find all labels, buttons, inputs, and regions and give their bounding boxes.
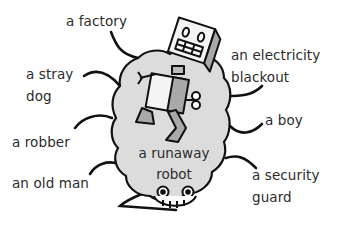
label-text: blackout [231, 66, 320, 88]
label-factory: a factory [66, 10, 127, 32]
leg-factory [111, 32, 138, 58]
leg-old-man [90, 162, 118, 174]
label-security-guard: a security guard [252, 164, 319, 208]
label-boy: a boy [265, 109, 303, 131]
label-text: a factory [66, 13, 127, 29]
label-text: guard [252, 186, 319, 208]
label-stray-dog: a stray dog [26, 63, 73, 107]
center-topic: a runaway robot [120, 143, 228, 185]
label-electricity-blackout: an electricity blackout [231, 44, 320, 88]
label-text: a boy [265, 112, 303, 128]
center-text-line2: robot [120, 164, 228, 185]
label-robber: a robber [12, 131, 70, 153]
label-text: a stray [26, 63, 73, 85]
leg-robber [75, 116, 112, 128]
spider-diagram: a factory a stray dog a robber an old ma… [0, 0, 340, 228]
center-text-line1: a runaway [120, 143, 228, 164]
label-text: a security [252, 164, 319, 186]
label-text: a robber [12, 134, 70, 150]
label-old-man: an old man [12, 172, 89, 194]
label-text: dog [26, 85, 73, 107]
label-text: an old man [12, 175, 89, 191]
label-text: an electricity [231, 44, 320, 66]
leg-stray-dog [84, 72, 120, 86]
leg-boy [230, 124, 262, 133]
